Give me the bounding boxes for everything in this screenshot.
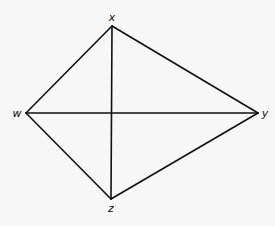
kite-diagram: xwyz	[0, 0, 275, 226]
edge-xy	[112, 26, 258, 113]
edge-wx	[26, 26, 112, 113]
vertex-label-z: z	[107, 202, 114, 215]
edge-zw	[26, 113, 111, 199]
edges-group	[26, 26, 258, 199]
edge-xz	[111, 26, 112, 199]
vertex-label-y: y	[261, 107, 269, 120]
edge-yz	[111, 113, 258, 199]
vertex-label-w: w	[13, 107, 22, 120]
vertex-label-x: x	[108, 11, 116, 24]
